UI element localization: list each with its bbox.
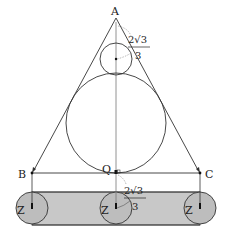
z-center-right: [199, 203, 201, 209]
z-center-left: [31, 203, 33, 209]
label-A: A: [110, 5, 120, 18]
z-center-middle: [115, 203, 117, 209]
label-z-right: Z: [185, 204, 193, 217]
dashed-radius-top: [117, 53, 131, 59]
top-fraction-numerator: 2√3: [128, 34, 147, 45]
label-Q: Q: [102, 163, 111, 176]
small-circle-center: [115, 58, 117, 60]
label-B: B: [18, 168, 26, 181]
point-C: [199, 172, 202, 175]
label-z-left: Z: [17, 204, 25, 217]
label-z-middle: Z: [101, 204, 109, 217]
label-C: C: [205, 168, 213, 181]
dashed-arc-bottom: [118, 175, 126, 184]
geometry-diagram: A B C Q Z Z Z 2√3 3 2√3 3: [0, 0, 226, 238]
top-fraction-denominator: 3: [135, 50, 141, 61]
point-B: [31, 172, 34, 175]
bottom-fraction-numerator: 2√3: [124, 185, 143, 196]
bottom-fraction-denominator: 3: [132, 201, 138, 212]
